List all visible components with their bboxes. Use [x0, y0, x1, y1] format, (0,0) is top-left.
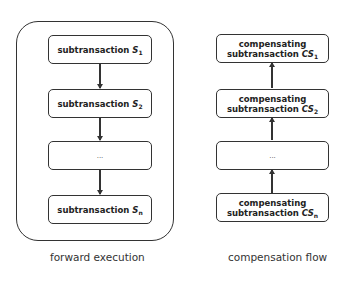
arrow-down-icon [99, 170, 101, 194]
box-label: subtransaction [227, 49, 302, 59]
box-line1: compensating [239, 198, 307, 208]
forward-execution-caption: forward execution [50, 251, 145, 263]
ellipsis-box: ... [216, 141, 329, 170]
subtransaction-s2-box: subtransaction S2 [48, 89, 152, 118]
box-symbol: CS [302, 208, 314, 218]
box-label: subtransaction [227, 104, 302, 114]
box-label: subtransaction [57, 45, 132, 55]
arrow-down-icon [99, 64, 101, 88]
subtransaction-sn-box: subtransaction Sn [48, 195, 152, 224]
compensating-cs1-box: compensatingsubtransaction CS1 [216, 34, 329, 63]
compensation-flow-caption: compensation flow [228, 251, 327, 263]
box-symbol: CS [302, 49, 314, 59]
compensating-cs2-box: compensatingsubtransaction CS2 [216, 89, 329, 118]
compensating-csn-box: compensatingsubtransaction CSn [216, 193, 329, 222]
box-label: subtransaction [57, 205, 132, 215]
ellipsis-box: ... [48, 141, 152, 170]
box-subscript: n [314, 212, 318, 219]
arrow-up-icon [271, 118, 273, 140]
box-line1: compensating [239, 94, 307, 104]
box-line1: compensating [239, 39, 307, 49]
box-subscript: 1 [314, 53, 318, 60]
box-subscript: 1 [138, 49, 142, 56]
arrow-down-icon [99, 118, 101, 140]
arrow-up-icon [271, 63, 273, 88]
box-label: subtransaction [227, 208, 302, 218]
box-subscript: n [138, 209, 142, 216]
ellipsis-label: ... [269, 151, 276, 161]
box-symbol: CS [302, 104, 314, 114]
box-subscript: 2 [138, 103, 142, 110]
ellipsis-label: ... [97, 151, 104, 161]
subtransaction-s1-box: subtransaction S1 [48, 35, 152, 64]
box-subscript: 2 [314, 108, 318, 115]
box-label: subtransaction [57, 99, 132, 109]
arrow-up-icon [271, 170, 273, 193]
